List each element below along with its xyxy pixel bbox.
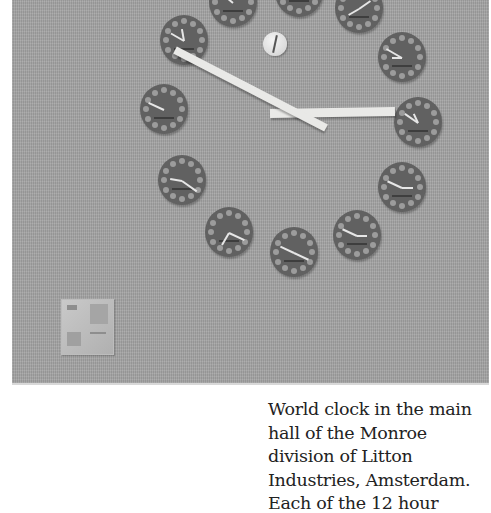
- caption-line: Industries, Amsterdam.: [268, 469, 491, 493]
- clock-hand: [181, 180, 197, 192]
- caption-line: World clock in the main: [268, 398, 491, 422]
- clock-hand: [357, 235, 367, 237]
- caption-line: hall of the Monroe: [268, 422, 491, 446]
- center-disc: [263, 32, 287, 56]
- world-clock-photo: [12, 0, 489, 383]
- hour-clock: [275, 0, 323, 17]
- hour-clock: [270, 227, 318, 277]
- hour-clock: [394, 97, 442, 147]
- caption-line: division of Litton: [268, 445, 491, 469]
- clock-hand: [387, 180, 402, 189]
- hour-clock: [378, 32, 426, 82]
- clock-hand: [402, 187, 413, 189]
- clock-hand: [148, 102, 164, 111]
- hour-clock: [209, 0, 257, 27]
- clock-hand: [392, 57, 402, 59]
- hour-clock: [158, 155, 206, 205]
- hour-clock: [205, 207, 253, 257]
- caption: World clock in the main hall of the Monr…: [268, 398, 491, 513]
- photo-edge: [12, 383, 489, 385]
- clock-hand: [219, 0, 234, 4]
- hour-clock: [378, 162, 426, 212]
- wall-plaque: [61, 299, 114, 355]
- hour-clock: [140, 84, 188, 134]
- hour-clock: [333, 210, 381, 260]
- caption-line: Each of the 12 hour: [268, 492, 491, 513]
- hour-clock: [335, 0, 383, 33]
- clock-hand: [358, 0, 371, 10]
- clock-hand: [342, 228, 357, 237]
- minute-hand: [173, 46, 328, 131]
- clock-hand: [348, 8, 359, 16]
- clock-hand: [280, 246, 294, 254]
